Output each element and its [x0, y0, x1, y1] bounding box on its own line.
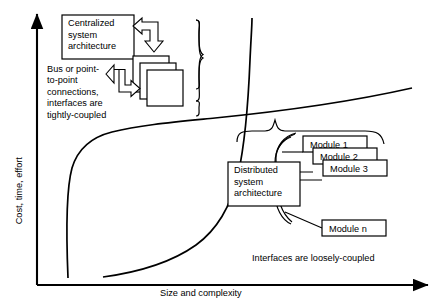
y-axis-label: Cost, time, effort — [14, 146, 25, 236]
loosely-coupled-caption: Interfaces are loosely-coupled — [252, 253, 375, 264]
module-1-label: Module 1 — [310, 140, 348, 151]
module-3-label: Module 3 — [330, 164, 368, 175]
centralized-brace-ext — [196, 101, 199, 116]
diagram-artwork — [0, 0, 446, 307]
x-axis-label: Size and complexity — [160, 288, 242, 299]
centralized-stack — [133, 56, 183, 106]
centralized-architecture-label: Centralized system architecture — [68, 18, 132, 53]
block-arrow-top — [133, 18, 163, 52]
module-n-label: Module n — [329, 224, 367, 235]
module-2-label: Module 2 — [320, 152, 358, 163]
centralized-description-label: Bus or point- to-point connections, inte… — [47, 64, 109, 121]
distributed-architecture-label: Distributed system architecture — [234, 165, 300, 200]
diagram-canvas: Cost, time, effort Size and complexity C… — [0, 0, 446, 307]
